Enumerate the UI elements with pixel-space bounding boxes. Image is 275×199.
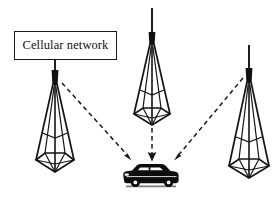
center-tower-mast-collar [149, 32, 156, 45]
center-tower-edge-right [154, 44, 170, 114]
car-wheel-rear-hub [167, 181, 171, 185]
right-tower-edge-left [229, 82, 247, 166]
figure-canvas: Cellular network [0, 0, 275, 199]
car-headlight [125, 173, 129, 175]
signal-link-left [62, 83, 132, 161]
car [123, 164, 178, 187]
car-wheel-front-hub [134, 181, 138, 185]
signal-link-center [148, 128, 157, 162]
left-tower-edge-right [57, 84, 74, 160]
diagram-svg [0, 0, 275, 199]
right-tower-mast-collar [246, 68, 253, 83]
left-tower-edge-left [36, 84, 53, 160]
center-cell-tower [134, 8, 170, 125]
cellular-network-label-box: Cellular network [14, 31, 117, 60]
right-cell-tower [229, 45, 269, 178]
signal-left-dashed-line [62, 83, 129, 157]
center-tower-edge-left [134, 44, 150, 114]
left-tower-mast-collar [52, 70, 59, 85]
right-tower-edge-right [251, 82, 269, 166]
signal-left-arrowhead [124, 150, 132, 160]
cellular-network-label-text: Cellular network [23, 39, 109, 52]
